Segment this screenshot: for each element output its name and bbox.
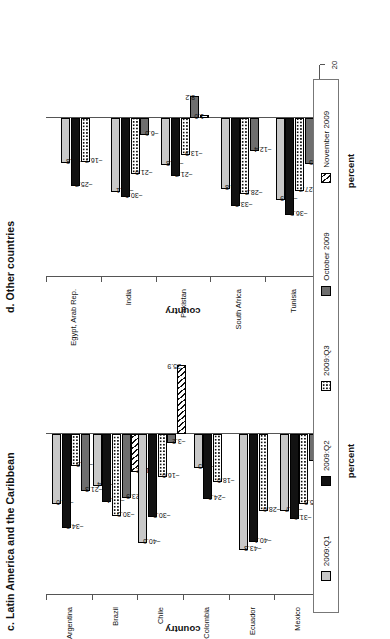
legend-swatch-nov (321, 173, 331, 183)
panel-d-category-axis (46, 276, 320, 277)
bar-q3 (299, 434, 308, 503)
bar-q2 (71, 118, 80, 186)
bar-value-label: −21.0 (135, 169, 153, 176)
bar-oct (81, 434, 90, 491)
category-tick (274, 595, 275, 600)
bar-q1 (138, 434, 147, 543)
bar-q2 (121, 118, 130, 198)
category-label: Mexico (293, 607, 302, 631)
legend-item-q2: 2009:Q2 (321, 440, 331, 486)
panel-c-plot-area: percent country 40200−20−40−60Argentina−… (46, 327, 320, 595)
legend-swatch-q1 (321, 571, 331, 581)
bar-value-label: −16.0 (162, 472, 180, 479)
bar-q3 (158, 434, 167, 477)
bar-q2 (102, 434, 111, 502)
panel-d-value-axis-title: percent (345, 154, 356, 188)
panel-c-value-axis-title: percent (345, 444, 356, 478)
bar-q3 (81, 118, 90, 162)
bar-value-label: −24.0 (208, 494, 226, 501)
bar-value-label: 1.0 (194, 113, 204, 120)
legend-label: November 2009 (322, 111, 331, 168)
legend-item-q3: 2009:Q3 (321, 345, 331, 391)
category-tick (137, 595, 138, 600)
category-tick (101, 277, 102, 282)
bar-value-label: −28.7 (245, 189, 263, 196)
bar-q2 (249, 434, 258, 541)
category-label: Colombia (201, 607, 210, 639)
bar-q1 (280, 434, 289, 511)
bar-value-label: −36.5 (290, 210, 308, 217)
bar-q3 (213, 434, 222, 482)
legend-label: 2009:Q1 (322, 536, 331, 567)
category-label: South Africa (233, 289, 242, 329)
legend-label: 2009:Q2 (322, 440, 331, 471)
category-label: India (124, 289, 133, 305)
category-label: Pakistan (179, 289, 188, 318)
panel-d-title: d. Other countries (4, 221, 16, 313)
bar-value-label: −33.2 (235, 201, 253, 208)
bar-q2 (285, 118, 294, 215)
bar-value-label: −28.6 (263, 506, 281, 513)
legend-swatch-q3 (321, 381, 331, 391)
bar-value-label: −12.4 (254, 146, 272, 153)
category-tick (265, 277, 266, 282)
category-tick (156, 277, 157, 282)
legend-swatch-oct (321, 286, 331, 296)
legend-swatch-q2 (321, 476, 331, 486)
category-label: Chile (156, 607, 165, 624)
bar-value-label: −31.6 (294, 514, 312, 521)
panel-d-plot-area: percent country 200−20−40−60Egypt, Arab … (46, 65, 320, 277)
bar-value-label: −18.0 (217, 477, 235, 484)
category-label: Tunisia (288, 289, 297, 313)
category-tick (92, 595, 93, 600)
category-label: Ecuador (247, 607, 256, 635)
bar-value-label: −3.2 (172, 438, 186, 445)
bar-q2 (62, 434, 71, 528)
category-label: Argentina (64, 607, 73, 639)
bar-nov (177, 365, 186, 434)
bar-value-label: −25.7 (75, 181, 93, 188)
category-tick (229, 595, 230, 600)
bar-value-label: −40.6 (143, 538, 161, 545)
bar-value-label: −40.1 (254, 537, 272, 544)
chart-legend: 2009:Q12009:Q22009:Q3October 2009Novembe… (313, 79, 339, 613)
bar-q2 (171, 118, 180, 176)
category-label: Brazil (110, 607, 119, 626)
bar-value-label: −21.7 (175, 171, 193, 178)
category-label: Egypt, Arab Rep. (69, 289, 78, 346)
bar-q2 (203, 434, 212, 498)
bar-q3 (240, 118, 249, 194)
value-tick-label: 20 (330, 61, 339, 69)
category-tick (46, 595, 47, 600)
bar-value-label: −30.5 (117, 511, 135, 518)
bar-q3 (259, 434, 268, 511)
bar-value-label: −34.9 (66, 523, 84, 530)
bar-q3 (112, 434, 121, 516)
panel-c-category-axis-title: country (166, 624, 201, 635)
legend-label: 2009:Q3 (322, 345, 331, 376)
panel-c-title: c. Latin America and the Caribbean (4, 452, 16, 631)
bar-q1 (61, 118, 70, 163)
bar-q2 (148, 434, 157, 517)
legend-item-nov: November 2009 (321, 111, 331, 183)
bar-value-label: −16.7 (85, 157, 103, 164)
value-tick (320, 64, 325, 65)
bar-oct (122, 434, 131, 498)
category-tick (46, 277, 47, 282)
bar-q3 (131, 118, 140, 174)
bar-q1 (52, 434, 61, 504)
legend-item-oct: October 2009 (321, 232, 331, 295)
legend-item-q1: 2009:Q1 (321, 536, 331, 582)
bar-q1 (111, 118, 120, 192)
bar-q2 (231, 118, 240, 206)
category-tick (183, 595, 184, 600)
bar-q3 (295, 118, 304, 191)
bar-q1 (276, 118, 285, 200)
category-tick (210, 277, 211, 282)
bar-q1 (93, 434, 102, 486)
bar-value-label: −13.9 (185, 150, 203, 157)
bar-q1 (239, 434, 248, 550)
bar-value-label: 25.9 (168, 363, 182, 370)
bar-q1 (161, 118, 170, 165)
bar-q1 (221, 118, 230, 189)
